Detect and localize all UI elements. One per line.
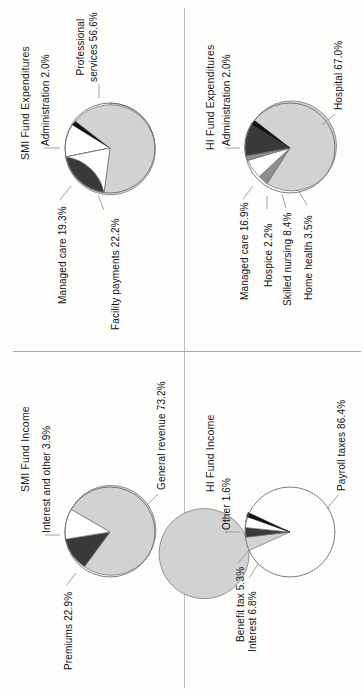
- panel-smi-fund-income: SMI Fund Income General revenue 73.2% In…: [0, 352, 184, 695]
- label-professional-services-line2: services 56.6%: [88, 12, 101, 82]
- label-payroll-taxes: Payroll taxes 86.4%: [336, 400, 347, 491]
- label-professional-services-line1: Professional: [75, 12, 88, 82]
- label-general-revenue: General revenue 73.2%: [156, 381, 167, 490]
- panel-smi-fund-expenditures: SMI Fund Expenditures: [0, 0, 184, 351]
- label-hospital: Hospital 67.0%: [333, 41, 344, 110]
- label-professional-services: Professional services 56.6%: [75, 12, 100, 82]
- panel-hi-fund-expenditures: HI Fund Expenditures Hospital 67.0% Admi…: [185, 0, 363, 351]
- label-home-health: Home health 3.5%: [303, 215, 314, 300]
- label-administration: Administration 2.0%: [221, 54, 232, 146]
- figure-four-pie-charts: SMI Fund Expenditures: [0, 0, 363, 695]
- panel-hi-fund-income: HI Fund Income Payroll taxes 86.4% Other…: [185, 352, 363, 695]
- label-managed-care: Managed care 16.9%: [239, 202, 250, 300]
- label-interest: Interest 6.8%: [247, 591, 258, 652]
- label-other: Other 1.6%: [221, 478, 232, 530]
- label-benefit-tax: Benefit tax 5.3%: [235, 567, 246, 642]
- label-administration: Administration 2.0%: [40, 54, 51, 146]
- label-facility-payments: Facility payments 22.2%: [110, 218, 121, 330]
- label-managed-care: Managed care 19.3%: [57, 206, 68, 304]
- label-skilled-nursing: Skilled nursing 8.4%: [282, 212, 293, 306]
- label-premiums: Premiums 22.9%: [63, 592, 74, 670]
- label-interest-and-other: Interest and other 3.9%: [41, 426, 52, 533]
- label-hospice: Hospice 2.2%: [263, 224, 274, 288]
